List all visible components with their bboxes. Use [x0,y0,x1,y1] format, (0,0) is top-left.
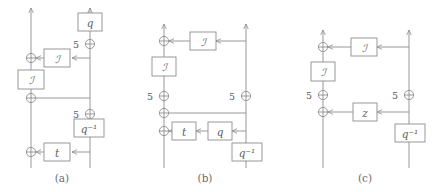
figure-canvas: q ℐ ℐ q⁻¹ t 5 5 [0,0,442,192]
delay-c-left-label: 5 [306,90,312,101]
adder-b2 [159,108,168,117]
delay-b-right-label: 5 [229,91,235,102]
delay-b-right [241,91,250,100]
panel-b: ℐ ℐ t q q⁻¹ 5 5 [147,24,262,168]
delay-c-left [318,90,327,99]
delay-c-right-label: 5 [392,90,398,101]
delay-b-left [159,91,168,100]
adder-a2 [26,93,35,102]
diagram-svg: q ℐ ℐ q⁻¹ t 5 5 [0,0,442,192]
block-b-q-label: q [217,126,224,138]
block-a-qinv-label: q⁻¹ [81,123,97,135]
caption-b: (b) [185,172,225,184]
panel-a: q ℐ ℐ q⁻¹ t 5 5 [18,8,104,168]
adder-a1 [26,53,35,62]
panel-c: ℐ ℐ z q⁻¹ 5 5 [306,30,425,168]
block-c-qinv-label: q⁻¹ [402,128,418,140]
caption-a: (a) [42,172,82,184]
delay-a-upper [85,39,94,48]
adder-a3 [26,147,35,156]
adder-c1 [318,42,327,51]
block-c-z-label: z [361,107,368,119]
caption-c: (c) [345,172,385,184]
adder-b3 [159,126,168,135]
delay-c-right [404,90,413,99]
delay-a-lower [85,109,94,118]
delay-a-upper-label: 5 [73,39,79,50]
delay-b-left-label: 5 [147,91,153,102]
block-a-q-label: q [87,17,94,29]
adder-c2 [318,107,327,116]
adder-b1 [159,36,168,45]
delay-a-lower-label: 5 [73,109,79,120]
block-b-qinv-label: q⁻¹ [239,147,255,159]
